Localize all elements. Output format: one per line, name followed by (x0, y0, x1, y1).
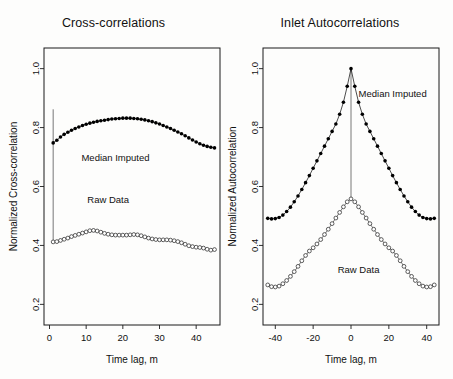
data-point-median-imputed (92, 120, 96, 124)
data-point-median-imputed (99, 119, 103, 123)
x-tick-label: 0 (348, 332, 353, 343)
data-point-raw-data (349, 197, 353, 201)
x-tick-label: -20 (306, 332, 320, 343)
data-point-median-imputed (183, 134, 187, 138)
data-point-median-imputed (143, 118, 147, 122)
data-point-raw-data (125, 233, 129, 237)
data-point-median-imputed (406, 200, 410, 204)
data-point-raw-data (410, 274, 414, 278)
x-tick-label: 20 (384, 332, 395, 343)
data-point-raw-data (425, 285, 429, 289)
data-point-median-imputed (395, 181, 399, 185)
data-point-median-imputed (281, 213, 285, 217)
data-point-median-imputed (51, 141, 55, 145)
data-point-median-imputed (59, 135, 63, 139)
data-point-raw-data (77, 232, 81, 236)
data-point-raw-data (296, 264, 300, 268)
data-point-median-imputed (308, 174, 312, 178)
data-point-median-imputed (414, 210, 418, 214)
data-point-median-imputed (342, 100, 346, 104)
data-point-raw-data (289, 274, 293, 278)
data-point-median-imputed (180, 132, 184, 136)
data-point-median-imputed (353, 85, 357, 89)
data-point-raw-data (191, 245, 195, 249)
data-point-raw-data (421, 284, 425, 288)
y-tick-label: 0.2 (30, 298, 41, 311)
data-point-median-imputed (304, 181, 308, 185)
data-point-raw-data (62, 237, 66, 241)
data-point-median-imputed (125, 116, 129, 120)
data-point-raw-data (311, 246, 315, 250)
data-point-raw-data (176, 240, 180, 244)
data-point-raw-data (154, 238, 158, 242)
data-point-raw-data (205, 247, 209, 251)
data-point-median-imputed (296, 194, 300, 198)
data-point-raw-data (304, 254, 308, 258)
data-point-raw-data (417, 282, 421, 286)
data-point-median-imputed (95, 120, 99, 124)
data-point-median-imputed (132, 117, 136, 121)
data-point-raw-data (84, 230, 88, 234)
y-tick-label: 0.8 (30, 121, 41, 134)
data-point-median-imputed (330, 130, 334, 134)
x-tick-label: 20 (118, 332, 129, 343)
data-point-raw-data (213, 248, 217, 252)
data-point-raw-data (161, 238, 165, 242)
data-point-raw-data (266, 283, 270, 287)
data-point-raw-data (432, 283, 436, 287)
data-point-raw-data (117, 233, 121, 237)
data-point-median-imputed (213, 146, 217, 150)
data-point-median-imputed (429, 217, 433, 221)
data-point-raw-data (70, 235, 74, 239)
x-tick-label: -40 (268, 332, 282, 343)
data-point-raw-data (187, 244, 191, 248)
data-point-median-imputed (372, 137, 376, 141)
data-point-median-imputed (402, 194, 406, 198)
data-point-raw-data (277, 284, 281, 288)
data-point-raw-data (136, 233, 140, 237)
data-point-raw-data (281, 282, 285, 286)
data-point-median-imputed (81, 124, 85, 128)
data-point-median-imputed (274, 217, 278, 221)
data-point-raw-data (330, 222, 334, 226)
data-point-median-imputed (345, 85, 349, 89)
cross-correlations-plot: 0102030400.20.40.60.81.0Time lag, mNorma… (0, 0, 227, 379)
data-point-median-imputed (376, 144, 380, 148)
data-point-raw-data (110, 233, 114, 237)
data-point-raw-data (55, 240, 59, 244)
y-tick-label: 0.6 (30, 180, 41, 193)
data-point-median-imputed (319, 152, 323, 156)
data-point-raw-data (319, 238, 323, 242)
data-point-raw-data (103, 231, 107, 235)
data-point-median-imputed (84, 123, 88, 127)
plot-frame (44, 48, 220, 325)
data-point-median-imputed (73, 127, 77, 131)
data-point-median-imputed (379, 152, 383, 156)
y-tick-label: 1.0 (249, 62, 260, 75)
data-point-raw-data (106, 232, 110, 236)
data-point-raw-data (132, 233, 136, 237)
data-point-raw-data (368, 222, 372, 226)
data-point-raw-data (114, 233, 118, 237)
series-annotation: Raw Data (87, 194, 129, 205)
data-point-median-imputed (285, 210, 289, 214)
panel-inlet-autocorrelations: Inlet Autocorrelations -40-20020400.20.4… (227, 0, 453, 379)
data-point-median-imputed (70, 128, 74, 132)
data-point-median-imputed (209, 146, 213, 150)
data-point-median-imputed (202, 143, 206, 147)
panel-left-title: Cross-correlations (0, 16, 227, 30)
data-point-median-imputed (205, 145, 209, 149)
data-point-raw-data (270, 285, 274, 289)
x-tick-label: 40 (421, 332, 432, 343)
panel-cross-correlations: Cross-correlations 0102030400.20.40.60.8… (0, 0, 227, 379)
data-point-median-imputed (103, 118, 107, 122)
data-point-raw-data (198, 246, 202, 250)
data-point-raw-data (143, 235, 147, 239)
data-point-median-imputed (187, 136, 191, 140)
data-point-median-imputed (387, 166, 391, 170)
data-point-median-imputed (326, 137, 330, 141)
data-point-raw-data (353, 200, 357, 204)
data-point-raw-data (209, 248, 213, 252)
x-tick-label: 10 (81, 332, 92, 343)
data-point-median-imputed (110, 117, 114, 121)
